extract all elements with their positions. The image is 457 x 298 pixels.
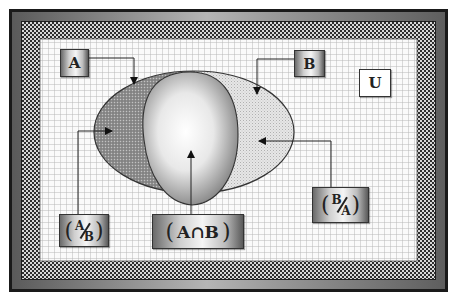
a-minus-b-label-box: ( A B ) — [59, 214, 109, 247]
universe-label: U — [368, 74, 381, 92]
paren-close: ) — [352, 194, 361, 216]
a-minus-b-denominator: B — [84, 230, 94, 244]
paren-close: ) — [95, 220, 104, 242]
venn-diagram: A B U ( A B ) ( A∩B ) ( B A — [0, 0, 457, 298]
diagram-canvas — [0, 0, 457, 298]
set-a-label: A — [69, 54, 81, 72]
set-a-label-box: A — [60, 49, 89, 77]
b-minus-a-label-box: ( B A ) — [312, 187, 369, 223]
b-minus-a-notation: B A — [330, 192, 352, 218]
b-minus-a-fraction: ( B A ) — [321, 192, 360, 218]
intersection-label-box: ( A∩B ) — [152, 214, 244, 249]
a-minus-b-fraction: ( A B ) — [64, 218, 103, 244]
set-b-label: B — [304, 56, 316, 72]
set-b-label-box: B — [294, 50, 325, 77]
intersection-close-paren: ) — [222, 219, 231, 244]
universe-label-box: U — [359, 69, 391, 97]
paren-open: ( — [321, 194, 330, 216]
b-minus-a-denominator: A — [341, 204, 350, 218]
intersection-open-paren: ( — [166, 219, 175, 244]
a-minus-b-notation: A B — [73, 218, 95, 244]
paren-open: ( — [64, 220, 73, 242]
intersection-label: A∩B — [174, 222, 222, 242]
